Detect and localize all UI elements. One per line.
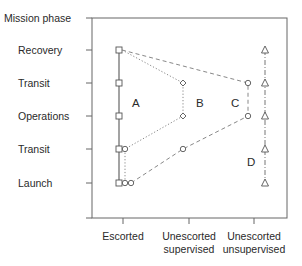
diamond-marker — [180, 80, 186, 86]
phase-label-launch: Launch — [18, 177, 53, 189]
region-label-c: C — [231, 97, 239, 109]
x-label-supervised-line2: supervised — [164, 243, 215, 255]
triangle-marker — [262, 112, 269, 119]
phase-label-transit-upper: Transit — [18, 77, 50, 89]
diamond-marker — [180, 113, 186, 119]
square-marker — [116, 80, 122, 86]
region-label-b: B — [196, 97, 204, 109]
circle-marker — [128, 180, 133, 185]
y-axis-title: Mission phase — [4, 12, 71, 24]
x-label-supervised-line1: Unescorted — [162, 230, 216, 242]
triangle-marker — [262, 145, 269, 152]
circle-marker — [122, 180, 127, 185]
triangle-marker — [262, 46, 269, 53]
circle-marker — [245, 80, 250, 85]
circle-marker — [180, 146, 185, 151]
square-marker — [116, 47, 122, 53]
triangle-marker — [262, 179, 269, 186]
square-marker — [116, 146, 122, 152]
x-label-unsupervised-line2: unsupervised — [223, 243, 286, 255]
mission-phase-diagram: Mission phase Recovery Transit Operation… — [0, 0, 302, 266]
triangle-marker — [262, 79, 269, 86]
y-axis-ticks — [86, 18, 92, 218]
circle-marker — [122, 146, 127, 151]
x-label-unsupervised-line1: Unescorted — [227, 230, 281, 242]
region-b-line — [122, 50, 183, 183]
region-label-d: D — [247, 156, 255, 168]
region-b-markers — [180, 80, 186, 119]
x-label-escorted: Escorted — [102, 230, 144, 242]
phase-label-transit-lower: Transit — [18, 143, 50, 155]
x-axis-ticks — [123, 218, 254, 224]
square-marker — [116, 180, 122, 186]
phase-label-recovery: Recovery — [18, 44, 63, 56]
square-marker — [116, 113, 122, 119]
circle-marker — [245, 113, 250, 118]
region-label-a: A — [132, 97, 140, 109]
phase-label-operations: Operations — [18, 110, 69, 122]
